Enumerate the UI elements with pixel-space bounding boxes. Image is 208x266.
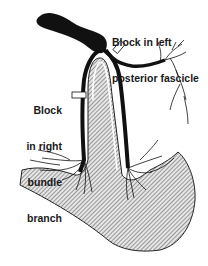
label-line: bundle (18, 176, 62, 188)
conduction-system-diagram: Block in left posterior fascicle Block i… (0, 0, 208, 266)
label-right-bundle-branch-block: Block in right bundle branch (18, 80, 62, 248)
block-marker-right-bundle-branch (72, 92, 86, 98)
label-left-posterior-fascicle-block: Block in left posterior fascicle (112, 12, 199, 108)
bundle-of-his (37, 13, 107, 53)
label-line: Block (18, 104, 62, 116)
label-line: posterior fascicle (112, 72, 199, 84)
label-line: Block in left (112, 36, 199, 48)
label-line: branch (18, 212, 62, 224)
label-line: in right (18, 140, 62, 152)
